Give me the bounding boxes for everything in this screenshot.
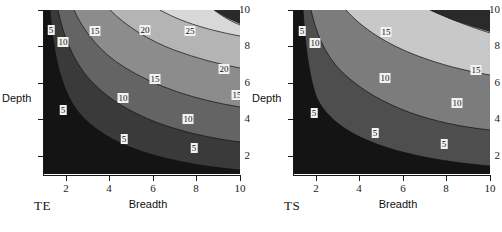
contour-label: 5 xyxy=(372,128,379,138)
y-tick xyxy=(38,46,44,47)
contour-label: 15 xyxy=(471,65,482,75)
y-axis-title: Depth xyxy=(252,92,281,104)
contour-label: 25 xyxy=(185,26,196,36)
y-tick-label: 6 xyxy=(464,76,500,88)
y-tick xyxy=(38,10,44,11)
y-tick-label: 8 xyxy=(214,39,250,51)
y-tick-label: 2 xyxy=(214,149,250,161)
y-tick-label: 8 xyxy=(464,39,500,51)
y-tick xyxy=(288,156,294,157)
y-tick xyxy=(288,83,294,84)
y-tick xyxy=(38,119,44,120)
x-tick xyxy=(316,175,317,181)
y-axis-line xyxy=(43,10,44,175)
contour-label: 5 xyxy=(191,143,198,153)
x-axis-line xyxy=(293,175,491,176)
x-tick-label: 6 xyxy=(141,182,165,194)
x-tick-label: 2 xyxy=(304,182,328,194)
plot-area-te: 5 10 15 20 25 20 15 15 10 10 5 5 5 xyxy=(44,10,240,174)
contour-label: 20 xyxy=(140,25,151,35)
contour-label: 5 xyxy=(121,134,128,144)
y-tick-label: 4 xyxy=(214,112,250,124)
y-tick-label: 2 xyxy=(464,149,500,161)
y-tick-label: 10 xyxy=(214,3,250,15)
panel-tag-ts: TS xyxy=(284,198,300,214)
y-tick-label: 10 xyxy=(464,3,500,15)
contour-label: 10 xyxy=(310,38,321,48)
y-tick xyxy=(288,46,294,47)
y-tick xyxy=(288,119,294,120)
y-axis-line xyxy=(293,10,294,175)
contour-label: 5 xyxy=(48,25,55,35)
y-axis-title: Depth xyxy=(2,92,31,104)
plot-area-ts: 5 10 15 15 10 10 5 5 5 xyxy=(294,10,490,174)
x-tick xyxy=(490,175,491,181)
y-tick xyxy=(38,83,44,84)
contour-label: 15 xyxy=(150,74,161,84)
x-tick xyxy=(109,175,110,181)
x-tick xyxy=(446,175,447,181)
panel-ts: 5 10 15 15 10 10 5 5 5 10 8 6 4 2 2 4 6 … xyxy=(250,0,500,232)
contour-label: 10 xyxy=(452,98,463,108)
x-tick-label: 10 xyxy=(228,182,252,194)
x-tick xyxy=(196,175,197,181)
x-tick xyxy=(240,175,241,181)
x-tick-label: 10 xyxy=(478,182,502,194)
x-tick-label: 8 xyxy=(434,182,458,194)
x-tick xyxy=(403,175,404,181)
contour-label: 10 xyxy=(118,93,129,103)
y-tick-label: 6 xyxy=(214,76,250,88)
contour-label: 10 xyxy=(380,73,391,83)
contour-label: 15 xyxy=(90,26,101,36)
contour-label: 10 xyxy=(58,37,69,47)
panel-tag-te: TE xyxy=(34,198,51,214)
y-tick xyxy=(38,156,44,157)
y-tick xyxy=(288,10,294,11)
x-tick xyxy=(359,175,360,181)
contour-label: 20 xyxy=(219,64,230,74)
y-tick-label: 4 xyxy=(464,112,500,124)
x-tick-label: 4 xyxy=(97,182,121,194)
contour-label: 5 xyxy=(441,139,448,149)
contour-label: 15 xyxy=(381,27,392,37)
contour-label: 5 xyxy=(60,105,67,115)
x-axis-line xyxy=(43,175,241,176)
x-tick-label: 2 xyxy=(54,182,78,194)
x-tick xyxy=(66,175,67,181)
x-tick-label: 4 xyxy=(347,182,371,194)
x-tick xyxy=(153,175,154,181)
contour-label: 5 xyxy=(311,108,318,118)
contour-label: 5 xyxy=(299,26,306,36)
contour-label: 15 xyxy=(232,90,241,100)
contour-svg-ts xyxy=(294,10,490,174)
x-tick-label: 6 xyxy=(391,182,415,194)
panel-te: 5 10 15 20 25 20 15 15 10 10 5 5 5 10 8 … xyxy=(0,0,250,232)
x-tick-label: 8 xyxy=(184,182,208,194)
contour-label: 10 xyxy=(183,114,194,124)
